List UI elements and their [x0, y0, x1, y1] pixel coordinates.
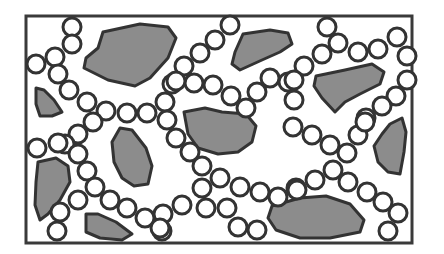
- bead-circle: [251, 183, 269, 201]
- bead-circle: [284, 118, 302, 136]
- bead-circle: [211, 169, 229, 187]
- bead-circle: [78, 93, 96, 111]
- bead-circle: [27, 55, 45, 73]
- bead-circle: [349, 43, 367, 61]
- bead-circle: [191, 44, 209, 62]
- bead-circle: [193, 179, 211, 197]
- bead-circle: [69, 191, 87, 209]
- bead-circle: [303, 126, 321, 144]
- bead-circle: [285, 71, 303, 89]
- bead-circle: [118, 199, 136, 217]
- bead-circle: [51, 203, 69, 221]
- bead-circle: [156, 93, 174, 111]
- bead-circle: [288, 181, 306, 199]
- bead-circle: [151, 219, 169, 237]
- bead-circle: [389, 204, 407, 222]
- bead-circle: [48, 222, 66, 240]
- bead-circle: [339, 173, 357, 191]
- bead-circle: [197, 199, 215, 217]
- bead-circle: [158, 111, 176, 129]
- bead-circle: [237, 99, 255, 117]
- bead-circle: [285, 91, 303, 109]
- bead-circle: [173, 196, 191, 214]
- bead-circle: [206, 31, 224, 49]
- bead-circle: [338, 144, 356, 162]
- bead-circle: [167, 129, 185, 147]
- bead-circle: [138, 104, 156, 122]
- bead-circle: [60, 81, 78, 99]
- bead-circle: [231, 178, 249, 196]
- bead-circle: [321, 136, 339, 154]
- bead-circle: [221, 16, 239, 34]
- bead-circle: [313, 45, 331, 63]
- bead-circle: [306, 171, 324, 189]
- diagram-canvas: [0, 0, 444, 254]
- bead-circle: [261, 69, 279, 87]
- bead-circle: [204, 76, 222, 94]
- bead-circle: [218, 199, 236, 217]
- bead-circle: [229, 218, 247, 236]
- bead-circle: [248, 221, 266, 239]
- bead-circle: [318, 18, 336, 36]
- bead-circle: [185, 74, 203, 92]
- bead-circle: [269, 188, 287, 206]
- particle-bead-diagram: [0, 0, 444, 254]
- bead-circle: [398, 47, 416, 65]
- bead-circle: [369, 40, 387, 58]
- bead-circle: [167, 72, 185, 90]
- bead-circle: [63, 18, 81, 36]
- bead-circle: [379, 222, 397, 240]
- bead-circle: [101, 191, 119, 209]
- bead-circle: [373, 97, 391, 115]
- bead-circle: [69, 145, 87, 163]
- bead-circle: [46, 48, 64, 66]
- bead-circle: [49, 134, 67, 152]
- bead-circle: [388, 28, 406, 46]
- bead-circle: [28, 139, 46, 157]
- bead-circle: [86, 178, 104, 196]
- bead-circle: [193, 157, 211, 175]
- bead-circle: [356, 113, 374, 131]
- bead-circle: [118, 104, 136, 122]
- bead-circle: [49, 65, 67, 83]
- bead-circle: [63, 35, 81, 53]
- bead-circle: [398, 71, 416, 89]
- bead-circle: [329, 34, 347, 52]
